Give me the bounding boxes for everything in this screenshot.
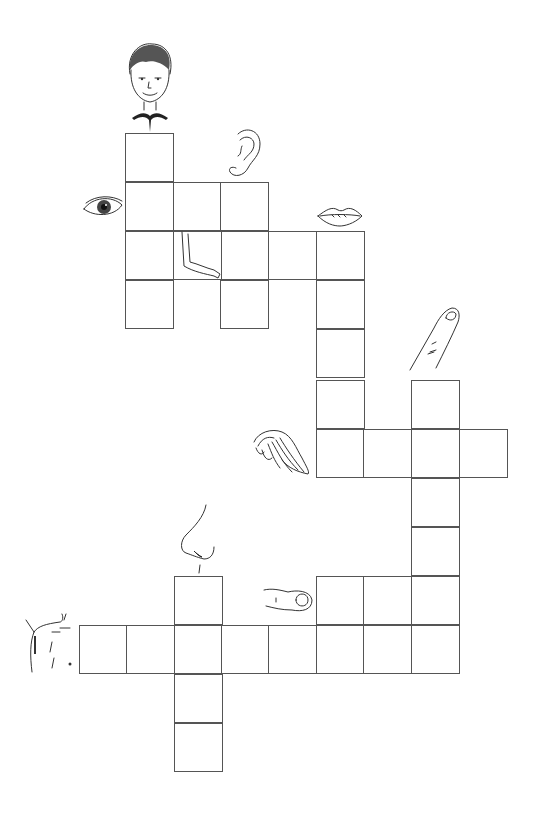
crossword-cell[interactable] [316, 329, 365, 378]
crossword-cell[interactable] [268, 231, 317, 280]
crossword-cell[interactable] [125, 182, 174, 231]
crossword-grid [0, 0, 536, 823]
crossword-cell[interactable] [125, 133, 174, 182]
eye-icon [82, 195, 124, 219]
crossword-cell[interactable] [363, 576, 412, 625]
crossword-cell[interactable] [316, 231, 365, 280]
nose-icon [176, 503, 218, 575]
crossword-cell[interactable] [316, 576, 365, 625]
crossword-cell[interactable] [411, 429, 460, 478]
crossword-cell[interactable] [316, 380, 365, 429]
mouth-icon [316, 204, 364, 228]
crossword-cell[interactable] [220, 182, 269, 231]
crossword-cell[interactable] [173, 182, 222, 231]
head-icon [122, 40, 178, 132]
crossword-cell[interactable] [316, 280, 365, 329]
crossword-cell[interactable] [126, 625, 175, 674]
crossword-cell[interactable] [411, 576, 460, 625]
crossword-cell[interactable] [125, 280, 174, 329]
crossword-cell[interactable] [459, 429, 508, 478]
crossword-cell[interactable] [363, 625, 412, 674]
crossword-cell[interactable] [411, 527, 460, 576]
crossword-cell[interactable] [363, 429, 412, 478]
finger-icon [408, 306, 464, 376]
crossword-cell[interactable] [174, 674, 223, 723]
arm-icon [180, 232, 222, 282]
ear-icon [224, 126, 264, 180]
crossword-cell[interactable] [316, 625, 365, 674]
thumb-icon [262, 584, 314, 616]
crossword-cell[interactable] [220, 280, 269, 329]
crossword-cell[interactable] [125, 231, 174, 280]
crossword-cell[interactable] [220, 231, 269, 280]
hair-icon [252, 428, 312, 478]
crossword-cell[interactable] [316, 429, 365, 478]
crossword-cell[interactable] [79, 625, 128, 674]
crossword-cell[interactable] [268, 625, 317, 674]
crossword-cell[interactable] [174, 625, 223, 674]
crossword-cell[interactable] [411, 625, 460, 674]
crossword-cell[interactable] [174, 576, 223, 625]
crossword-cell[interactable] [174, 723, 223, 772]
crossword-cell[interactable] [221, 625, 270, 674]
crossword-cell[interactable] [411, 478, 460, 527]
crossword-cell[interactable] [411, 380, 460, 429]
shoulder-icon [24, 612, 78, 678]
